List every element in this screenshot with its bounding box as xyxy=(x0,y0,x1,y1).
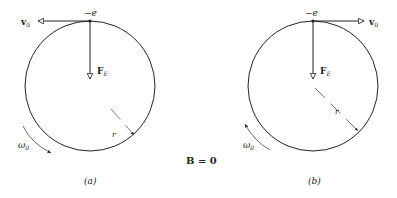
force-label-b: FE xyxy=(320,66,331,77)
caption-b: (b) xyxy=(308,176,321,186)
charge-label-b: −e xyxy=(305,8,318,18)
omega-label-a: ω0 xyxy=(18,140,29,151)
force-label-a: FE xyxy=(97,66,108,77)
radius-label-b: r xyxy=(335,107,340,116)
omega-label-b: ω0 xyxy=(243,140,254,151)
charge-label-a: −e xyxy=(84,8,97,18)
figure: −e v0 FE r ω0 (a) B = 0 −e v0 FE r ω0 (b… xyxy=(0,0,397,198)
radius-label-a: r xyxy=(112,130,117,139)
caption-a: (a) xyxy=(84,176,97,186)
magnetic-field-label: B = 0 xyxy=(186,155,217,166)
velocity-label-a: v0 xyxy=(20,17,30,28)
panel-b: −e v0 FE r ω0 (b) xyxy=(243,8,378,186)
panel-a: −e v0 FE r ω0 (a) xyxy=(18,8,155,186)
velocity-label-b: v0 xyxy=(368,17,378,28)
